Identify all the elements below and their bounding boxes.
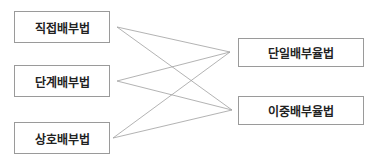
node-dual-rate: 이중배부율법 (238, 96, 364, 125)
node-label: 직접배부법 (35, 19, 90, 36)
line-reciprocal-single (113, 52, 230, 138)
node-label: 상호배부법 (35, 130, 90, 147)
node-label: 단계배부법 (35, 73, 90, 90)
node-reciprocal-allocation: 상호배부법 (14, 122, 110, 154)
node-label: 단일배부율법 (268, 44, 334, 61)
node-direct-allocation: 직접배부법 (14, 11, 110, 43)
node-label: 이중배부율법 (268, 102, 334, 119)
node-single-rate: 단일배부율법 (238, 38, 364, 67)
node-step-allocation: 단계배부법 (14, 65, 110, 97)
line-step-single (117, 52, 230, 81)
line-step-dual (117, 81, 232, 110)
line-reciprocal-dual (113, 110, 232, 138)
